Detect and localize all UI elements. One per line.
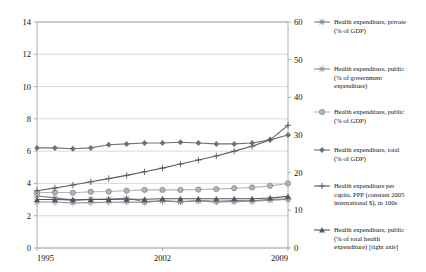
legend-label: (% of GDP)	[334, 155, 366, 163]
line-chart: 024681012140102030405060199520022009Heal…	[0, 0, 426, 272]
y-tick-label-left: 6	[27, 146, 31, 156]
marker-diamond	[52, 145, 58, 151]
marker-circle	[267, 183, 272, 188]
y-tick-label-left: 2	[27, 211, 31, 221]
marker-circle	[232, 186, 237, 191]
legend-label: Health expenditure, public	[334, 108, 404, 115]
marker-circle	[285, 181, 290, 186]
marker-circle	[214, 186, 219, 191]
marker-diamond	[213, 141, 219, 147]
legend-label: Health expenditure, public	[334, 65, 404, 72]
x-tick-label: 2002	[154, 253, 171, 263]
marker-diamond	[178, 139, 184, 145]
marker-circle	[88, 189, 93, 194]
legend-entry-1[interactable]: Health expenditure, public(% of governme…	[314, 65, 404, 89]
legend-entry-0[interactable]: Health expenditure, private(% of GDP)	[314, 18, 406, 34]
y-tick-label-right: 60	[294, 17, 303, 27]
legend-label: (% of total health	[334, 235, 381, 243]
legend-label: Health expenditure, private	[334, 18, 406, 25]
marker-circle	[160, 187, 165, 192]
series-line	[37, 125, 288, 190]
chart-container: 024681012140102030405060199520022009Heal…	[0, 0, 426, 272]
legend-label: capita, PPP (constant 2005	[334, 191, 405, 199]
marker-diamond	[196, 140, 202, 146]
marker-diamond	[88, 145, 94, 151]
marker-circle	[142, 187, 147, 192]
y-tick-label-left: 14	[23, 17, 32, 27]
legend-entry-5[interactable]: Health expenditure, public(% of total he…	[314, 226, 404, 250]
marker-circle	[124, 188, 129, 193]
y-tick-label-left: 0	[27, 243, 31, 253]
legend-label: (% of GDP)	[334, 117, 366, 125]
legend-label: Health expenditure, public	[334, 226, 404, 233]
x-tick-label: 1995	[37, 253, 54, 263]
legend-label: Health expenditure per	[334, 182, 395, 189]
y-tick-label-right: 40	[294, 92, 303, 102]
marker-circle	[178, 187, 183, 192]
legend-entry-3[interactable]: Health expenditure, total(% of GDP)	[314, 146, 400, 162]
marker-diamond	[34, 145, 40, 151]
marker-diamond	[106, 142, 112, 148]
y-tick-label-left: 4	[27, 178, 32, 188]
marker-diamond	[319, 147, 325, 153]
legend-label: expenditure) [right axis]	[334, 243, 398, 251]
y-tick-label-right: 0	[294, 243, 298, 253]
marker-circle	[249, 185, 254, 190]
legend-label: (% of GDP)	[334, 27, 366, 35]
legend-label: (% of government	[334, 74, 382, 82]
marker-circle	[70, 190, 75, 195]
y-tick-label-right: 10	[294, 205, 303, 215]
marker-circle	[196, 187, 201, 192]
legend-label: Health expenditure, total	[334, 146, 400, 153]
marker-diamond	[124, 141, 130, 147]
marker-circle	[319, 109, 324, 114]
legend-entry-2[interactable]: Health expenditure, public(% of GDP)	[314, 108, 404, 124]
y-tick-label-right: 50	[294, 55, 303, 65]
legend-label: international $), in 100s	[334, 199, 397, 207]
marker-diamond	[231, 141, 237, 147]
marker-circle	[106, 189, 111, 194]
y-tick-label-left: 8	[27, 114, 31, 124]
marker-diamond	[160, 140, 166, 146]
x-tick-label: 2009	[271, 253, 288, 263]
legend-label: expenditure)	[334, 82, 367, 90]
y-tick-label-left: 12	[23, 49, 32, 59]
marker-diamond	[142, 140, 148, 146]
y-tick-label-right: 30	[294, 130, 303, 140]
y-tick-label-left: 10	[23, 82, 32, 92]
marker-diamond	[285, 132, 291, 138]
legend-entry-4[interactable]: Health expenditure percapita, PPP (const…	[314, 182, 405, 206]
y-tick-label-right: 20	[294, 168, 303, 178]
